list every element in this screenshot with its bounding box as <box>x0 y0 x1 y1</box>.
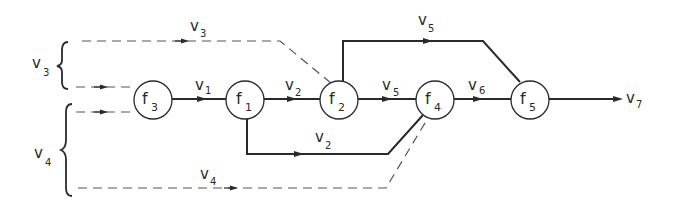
edge-f1-f4-below <box>247 115 423 154</box>
node-f3: f 3 <box>134 81 172 119</box>
input-group-label-v3: v 3 <box>32 54 49 78</box>
svg-text:1: 1 <box>245 101 252 114</box>
svg-text:v: v <box>34 144 43 162</box>
svg-text:v: v <box>626 89 635 107</box>
node-f5: f 5 <box>511 81 549 119</box>
svg-text:2: 2 <box>325 140 331 151</box>
svg-text:v: v <box>315 128 324 146</box>
edge-label-v3-top: v 3 <box>190 17 206 39</box>
edge-label-v1: v 1 <box>195 76 211 96</box>
svg-text:5: 5 <box>529 101 536 114</box>
edge-label-v5-top: v 5 <box>418 11 434 34</box>
svg-text:4: 4 <box>45 157 51 168</box>
edge-label-v7: v 7 <box>626 89 642 110</box>
edge-v3-to-f2 <box>82 41 332 84</box>
svg-text:v: v <box>382 76 391 94</box>
svg-text:v: v <box>200 165 209 183</box>
svg-text:3: 3 <box>200 28 206 39</box>
flow-diagram: v 3 v 4 v 3 <box>0 0 676 207</box>
svg-text:5: 5 <box>393 87 399 98</box>
svg-text:4: 4 <box>210 176 216 187</box>
svg-text:2: 2 <box>338 101 345 114</box>
node-f4: f 4 <box>416 81 454 119</box>
svg-text:f: f <box>425 89 431 108</box>
svg-text:3: 3 <box>151 101 158 114</box>
svg-text:f: f <box>142 89 148 108</box>
edge-label-v2-lower: v 2 <box>315 128 331 151</box>
input-group-label-v4: v 4 <box>34 144 51 168</box>
svg-text:v: v <box>190 17 199 35</box>
svg-text:v: v <box>468 76 477 94</box>
svg-text:7: 7 <box>636 99 642 110</box>
svg-text:v: v <box>418 11 427 29</box>
svg-text:v: v <box>285 76 294 94</box>
svg-text:f: f <box>329 89 335 108</box>
brace-v4 <box>61 104 72 196</box>
svg-text:4: 4 <box>434 101 441 114</box>
svg-text:3: 3 <box>43 67 49 78</box>
edge-f2-f5-above <box>343 41 520 82</box>
svg-text:f: f <box>520 89 526 108</box>
node-f2: f 2 <box>320 81 358 119</box>
brace-v3 <box>57 42 68 89</box>
node-f1: f 1 <box>226 81 264 119</box>
edge-label-v6: v 6 <box>468 76 485 96</box>
svg-text:f: f <box>236 89 242 108</box>
svg-text:6: 6 <box>479 85 485 96</box>
svg-text:2: 2 <box>295 87 301 98</box>
svg-text:v: v <box>32 54 41 72</box>
svg-text:v: v <box>195 76 204 94</box>
edge-label-v5-main: v 5 <box>382 76 399 98</box>
svg-text:5: 5 <box>428 23 434 34</box>
edge-label-v2-main: v 2 <box>285 76 301 98</box>
svg-text:1: 1 <box>205 85 211 96</box>
edge-label-v4-lower: v 4 <box>200 165 216 187</box>
